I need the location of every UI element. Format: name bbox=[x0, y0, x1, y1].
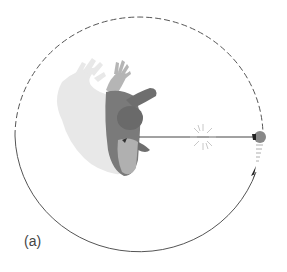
circular-motion-diagram bbox=[0, 0, 287, 272]
ball bbox=[252, 131, 266, 161]
panel-label: (a) bbox=[24, 233, 41, 249]
person-figure bbox=[105, 60, 156, 176]
